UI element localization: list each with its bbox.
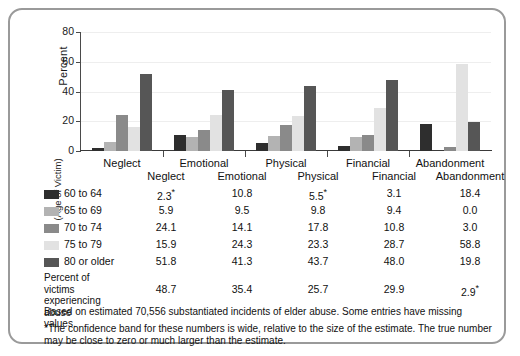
table-header-row: NeglectEmotionalPhysicalFinancialAbandon…: [10, 170, 508, 184]
table-cell: 24.1: [128, 221, 204, 233]
chart-frame: Percent 020406080 NeglectEmotionalPhysic…: [8, 8, 506, 344]
table-cell: 2.3*: [128, 187, 204, 202]
table-cell: 17.8: [280, 221, 356, 233]
bar: [468, 122, 480, 151]
table-row: 75 to 7915.924.323.328.758.8: [44, 238, 502, 252]
table-cell: 14.1: [204, 221, 280, 233]
summary-cell: 48.7: [128, 283, 204, 295]
legend-series-label: 80 or older: [64, 255, 114, 267]
table-cell: 5.9: [128, 204, 204, 216]
summary-cell: 2.9*: [432, 283, 508, 298]
table-cell: 3.1: [356, 187, 432, 199]
legend-series-label: 65 to 69: [64, 204, 102, 216]
bar-group: [245, 32, 327, 151]
table-cell: 9.4: [356, 204, 432, 216]
table-row: 80 or older51.841.343.748.019.8: [44, 255, 502, 269]
summary-cell: 25.7: [280, 283, 356, 295]
table-cell: 5.5*: [280, 187, 356, 202]
table-cell: 3.0: [432, 221, 508, 233]
table-column-header: Financial: [356, 170, 432, 182]
legend-series-label: 60 to 64: [64, 187, 102, 199]
bar: [362, 135, 374, 151]
category-label: Neglect: [81, 157, 163, 169]
table-cell: 19.8: [432, 255, 508, 267]
bar: [280, 125, 292, 151]
bar: [338, 146, 350, 151]
bar-group: [163, 32, 245, 151]
table-cell: 51.8: [128, 255, 204, 267]
bar: [222, 90, 234, 151]
table-column-header: Neglect: [128, 170, 204, 182]
category-label: Abandonment: [409, 157, 491, 169]
table-row: 65 to 695.99.59.89.40.0: [44, 204, 502, 218]
bar: [140, 74, 152, 151]
bar: [268, 136, 280, 151]
legend-series-label: 70 to 74: [64, 221, 102, 233]
legend-swatch: [44, 190, 59, 199]
category-label: Physical: [245, 157, 327, 169]
plot-area: Percent 020406080 NeglectEmotionalPhysic…: [10, 10, 508, 170]
table-column-header: Abandonment: [432, 170, 508, 182]
table-cell: 10.8: [204, 187, 280, 199]
bar: [210, 115, 222, 151]
legend-swatch: [44, 258, 59, 267]
table-cell: 10.8: [356, 221, 432, 233]
category-label: Financial: [327, 157, 409, 169]
bar: [444, 147, 456, 151]
bar: [116, 115, 128, 151]
bar-group: [409, 32, 491, 151]
table-cell: 41.3: [204, 255, 280, 267]
table-cell: 48.0: [356, 255, 432, 267]
table-cell: 15.9: [128, 238, 204, 250]
table-row: 70 to 7424.114.117.810.83.0: [44, 221, 502, 235]
table-cell: 0.0: [432, 204, 508, 216]
table-column-header: Emotional: [204, 170, 280, 182]
bar: [420, 124, 432, 151]
table-cell: 24.3: [204, 238, 280, 250]
bar: [350, 137, 362, 151]
table-cell: 28.7: [356, 238, 432, 250]
bar: [374, 108, 386, 151]
bar: [92, 148, 104, 151]
table-cell: 18.4: [432, 187, 508, 199]
table-cell: 58.8: [432, 238, 508, 250]
legend-series-label: 75 to 79: [64, 238, 102, 250]
summary-cell: 29.9: [356, 283, 432, 295]
bar: [104, 142, 116, 151]
bar-groups: [81, 32, 491, 151]
bar: [198, 130, 210, 151]
legend-swatch: [44, 241, 59, 250]
table-cell: 9.8: [280, 204, 356, 216]
bar: [128, 127, 140, 151]
bar: [256, 143, 268, 151]
bar-group: [81, 32, 163, 151]
table-cell: 23.3: [280, 238, 356, 250]
bar: [186, 137, 198, 151]
y-tick-label: 60: [48, 56, 74, 67]
summary-cell: 35.4: [204, 283, 280, 295]
bar: [292, 116, 304, 151]
table-row: 60 to 642.3*10.85.5*3.118.4: [44, 187, 502, 201]
bar-group: [327, 32, 409, 151]
table-cell: 43.7: [280, 255, 356, 267]
y-tick-label: 20: [48, 115, 74, 126]
bar: [174, 135, 186, 151]
legend-swatch: [44, 224, 59, 233]
bar: [456, 64, 468, 151]
legend-swatch: [44, 207, 59, 216]
bar: [304, 86, 316, 151]
footnote-asterisk: *The confidence band for these numbers i…: [44, 323, 496, 347]
y-tick-label: 80: [48, 26, 74, 37]
y-tick-label: 40: [48, 86, 74, 97]
bar: [386, 80, 398, 151]
table-column-header: Physical: [280, 170, 356, 182]
category-label: Emotional: [163, 157, 245, 169]
table-cell: 9.5: [204, 204, 280, 216]
